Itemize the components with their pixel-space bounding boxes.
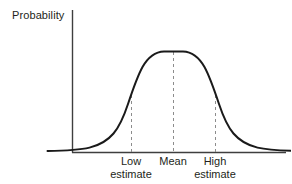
normal-distribution-curve	[48, 51, 292, 151]
x-tick-label-high-estimate: High estimate	[194, 155, 236, 181]
x-tick-label-high-estimate-line1: High	[204, 155, 227, 167]
x-tick-label-low-estimate-line1: Low	[121, 155, 141, 167]
x-tick-label-high-estimate-line2: estimate	[194, 168, 236, 181]
x-tick-label-low-estimate-line2: estimate	[110, 168, 152, 181]
x-tick-label-low-estimate: Low estimate	[110, 155, 152, 181]
x-tick-label-mean-line1: Mean	[159, 155, 187, 167]
y-axis-title: Probability	[12, 9, 64, 21]
x-tick-label-mean: Mean	[159, 155, 187, 168]
probability-distribution-figure: Probability Low estimate Mean High estim…	[0, 0, 291, 184]
